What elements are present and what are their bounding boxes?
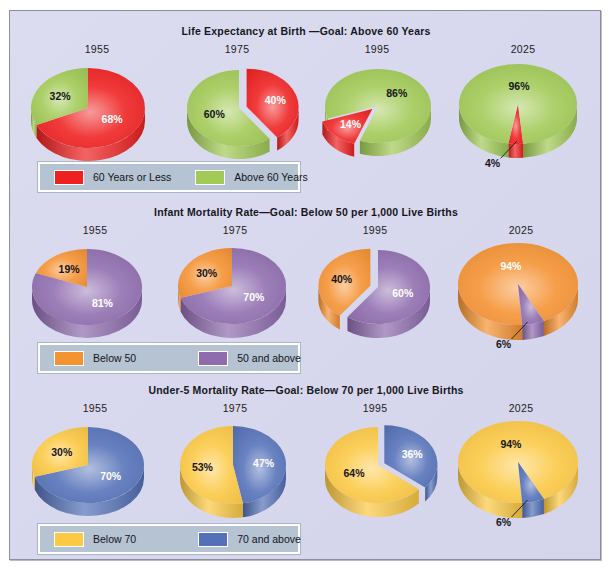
slice-percent-label: 6% xyxy=(496,516,512,528)
legend-item[interactable]: Below 50 xyxy=(54,351,136,366)
legend-item[interactable]: Below 70 xyxy=(54,532,136,547)
panel-under5-mortality: Under-5 Mortality Rate—Goal: Below 70 pe… xyxy=(10,384,602,524)
panel-title: Under-5 Mortality Rate—Goal: Below 70 pe… xyxy=(10,384,602,396)
pie-chart-1995[interactable]: 199536%64% xyxy=(300,402,450,533)
pie-chart-1955[interactable]: 195570%30% xyxy=(20,402,170,533)
pie-chart-1995[interactable]: 199560%40% xyxy=(300,224,450,355)
legend-item[interactable]: 70 and above xyxy=(198,532,301,547)
legend-label: 70 and above xyxy=(237,533,301,545)
legend-swatch-50-and-above xyxy=(198,351,228,366)
legend-life-expectancy: 60 Years or Less Above 60 Years xyxy=(38,162,300,192)
pie-year-label: 1995 xyxy=(302,43,452,55)
legend-under5-mortality: Below 70 70 and above xyxy=(38,524,300,554)
panel-title: Life Expectancy at Birth —Goal: Above 60… xyxy=(10,25,602,37)
pie-chart-1955[interactable]: 195568%32% xyxy=(22,43,172,174)
pie-year-label: 2025 xyxy=(446,224,596,236)
panel-infant-mortality: Infant Mortality Rate—Goal: Below 50 per… xyxy=(10,206,602,344)
pie-year-label: 2025 xyxy=(448,43,598,55)
pie-year-label: 1975 xyxy=(160,224,310,236)
pie-row: 195581%19%197570%30%199560%40%202594%6% xyxy=(10,224,602,344)
panel-life-expectancy: Life Expectancy at Birth —Goal: Above 60… xyxy=(10,25,602,163)
pie-year-label: 1995 xyxy=(300,402,450,414)
pie-year-label: 1955 xyxy=(20,224,170,236)
pie-chart-2025[interactable]: 202594%6% xyxy=(446,224,596,359)
pie-chart-1975[interactable]: 197540%60% xyxy=(162,43,312,174)
slice-percent-label: 4% xyxy=(485,157,501,169)
legend-swatch-60-or-less xyxy=(54,170,84,185)
legend-label: Below 50 xyxy=(93,352,136,364)
pie-year-label: 1975 xyxy=(162,43,312,55)
legend-swatch-70-and-above xyxy=(198,532,228,547)
pie-row: 195570%30%197547%53%199536%64%202594%6% xyxy=(10,402,602,524)
legend-swatch-below-70 xyxy=(54,532,84,547)
slice-percent-label: 6% xyxy=(496,338,512,350)
pie-chart-2025[interactable]: 202594%6% xyxy=(446,402,596,537)
legend-item[interactable]: 50 and above xyxy=(198,351,301,366)
pie-year-label: 1955 xyxy=(22,43,172,55)
pie-year-label: 2025 xyxy=(446,402,596,414)
pie-chart-1975[interactable]: 197570%30% xyxy=(160,224,310,355)
pie-year-label: 1975 xyxy=(160,402,310,414)
pie-year-label: 1955 xyxy=(20,402,170,414)
panel-title: Infant Mortality Rate—Goal: Below 50 per… xyxy=(10,206,602,218)
legend-label: 60 Years or Less xyxy=(93,171,171,183)
legend-label: 50 and above xyxy=(237,352,301,364)
legend-label: Above 60 Years xyxy=(234,171,308,183)
pie-year-label: 1995 xyxy=(300,224,450,236)
legend-item[interactable]: 60 Years or Less xyxy=(54,170,171,185)
pie-chart-1955[interactable]: 195581%19% xyxy=(20,224,170,355)
pie-chart-2025[interactable]: 20254%96% xyxy=(448,43,598,178)
legend-swatch-above-60 xyxy=(195,170,225,185)
pie-chart-1975[interactable]: 197547%53% xyxy=(160,402,310,533)
pie-chart-1995[interactable]: 199514%86% xyxy=(302,43,452,174)
infographic-poster: Life Expectancy at Birth —Goal: Above 60… xyxy=(9,10,601,560)
legend-label: Below 70 xyxy=(93,533,136,545)
pie-row: 195568%32%197540%60%199514%86%20254%96% xyxy=(10,43,602,163)
legend-infant-mortality: Below 50 50 and above xyxy=(38,343,300,373)
legend-swatch-below-50 xyxy=(54,351,84,366)
legend-item[interactable]: Above 60 Years xyxy=(195,170,308,185)
